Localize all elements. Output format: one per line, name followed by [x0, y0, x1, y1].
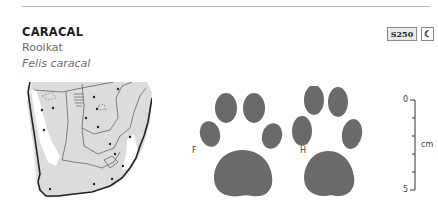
top-divider: [22, 6, 430, 7]
hind-paw-print: [292, 86, 364, 196]
hind-print-label: H: [300, 146, 306, 155]
local-name: Rooikat: [22, 41, 63, 54]
scale-min-label: 0: [403, 95, 408, 104]
page-reference-badge: S250: [387, 27, 417, 41]
scientific-name: Felis caracal: [22, 57, 90, 70]
scale-unit-label: cm: [421, 140, 433, 149]
front-paw-print: [197, 93, 285, 196]
distribution-map: [22, 82, 152, 200]
crescent-moon-icon: ☾: [421, 27, 434, 41]
track-prints: [180, 86, 380, 201]
front-print-label: F: [192, 146, 197, 155]
common-name: CARACAL: [22, 25, 83, 39]
scale-max-label: 5: [403, 185, 408, 194]
